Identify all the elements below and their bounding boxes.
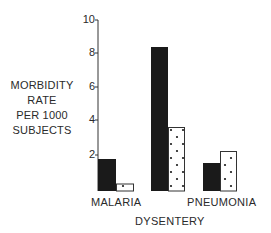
bar-pneumonia-dotted bbox=[221, 152, 237, 192]
category-label-dysentery: DYSENTERY bbox=[135, 215, 205, 227]
bar-dysentery-solid bbox=[151, 47, 168, 191]
bar-pneumonia-solid bbox=[203, 163, 220, 191]
category-label-pneumonia: PNEUMONIA bbox=[187, 196, 256, 208]
bar-dysentery-dotted bbox=[169, 128, 185, 192]
category-label-malaria: MALARIA bbox=[91, 196, 141, 208]
bar-malaria-dotted bbox=[117, 184, 134, 191]
bar-malaria-solid bbox=[98, 159, 116, 191]
